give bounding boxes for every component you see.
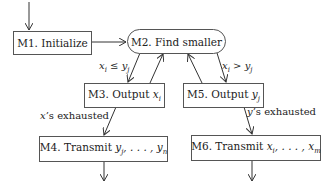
- arrow-m2-m3: [128, 53, 140, 82]
- arrow-m3-m2: [150, 54, 163, 83]
- node-m3-label: M3. Output xi: [88, 88, 161, 103]
- node-m2-find-smaller: M2. Find smaller: [127, 29, 226, 54]
- edge-label-x-exhausted: x’s exhausted: [40, 110, 109, 121]
- node-m3-output-x: M3. Output xi: [84, 83, 165, 108]
- node-m5-output-y: M5. Output yj: [183, 83, 264, 108]
- node-m6-transmit-x: M6. Transmit xi, . . . , xm: [191, 135, 321, 161]
- node-m2-label: M2. Find smaller: [131, 36, 222, 48]
- edge-label-x-gt-y: xi > yj: [222, 60, 252, 74]
- node-m6-label: M6. Transmit xi, . . . , xm: [191, 140, 321, 155]
- node-m1-initialize: M1. Initialize: [13, 31, 92, 55]
- arrow-m5-m2: [188, 54, 202, 83]
- node-m4-label: M4. Transmit yj, . . . , yn: [40, 141, 167, 156]
- node-m4-transmit-y: M4. Transmit yj, . . . , yn: [39, 136, 168, 162]
- edge-label-y-exhausted: y’s exhausted: [247, 106, 316, 117]
- node-m5-label: M5. Output yj: [187, 88, 260, 103]
- edge-label-x-le-y: xi ≤ yj: [99, 60, 129, 74]
- node-m1-label: M1. Initialize: [17, 37, 88, 49]
